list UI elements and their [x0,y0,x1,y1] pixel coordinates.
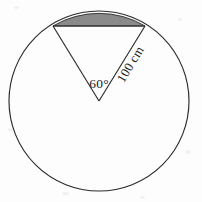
shaded-segment [53,13,145,26]
circle-segment-figure: 60° 100 cm [0,0,202,202]
geometry-drawing: 60° 100 cm [0,0,202,202]
angle-label: 60° [89,76,109,91]
radius-label: 100 cm [113,43,146,85]
